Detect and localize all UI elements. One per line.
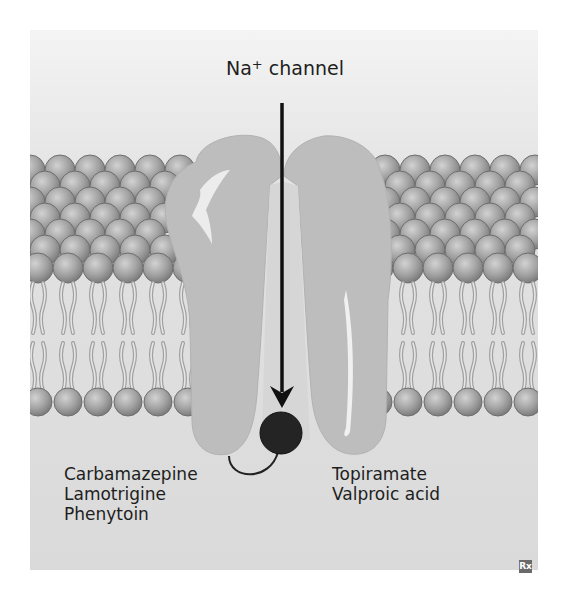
title-prefix: Na <box>226 57 252 79</box>
drug-label: Lamotrigine <box>64 484 198 504</box>
drug-label: Phenytoin <box>64 504 198 524</box>
drug-label: Topiramate <box>332 464 440 484</box>
drug-label: Valproic acid <box>332 484 440 504</box>
drug-label: Carbamazepine <box>64 464 198 484</box>
rx-icon: Rx <box>519 560 532 573</box>
sodium-channel-protein <box>165 135 391 454</box>
title-superscript: + <box>252 57 263 72</box>
title-suffix: channel <box>263 57 344 79</box>
right-drug-list: Topiramate Valproic acid <box>332 464 440 504</box>
left-drug-list: Carbamazepine Lamotrigine Phenytoin <box>64 464 198 524</box>
channel-title: Na+ channel <box>226 58 344 78</box>
